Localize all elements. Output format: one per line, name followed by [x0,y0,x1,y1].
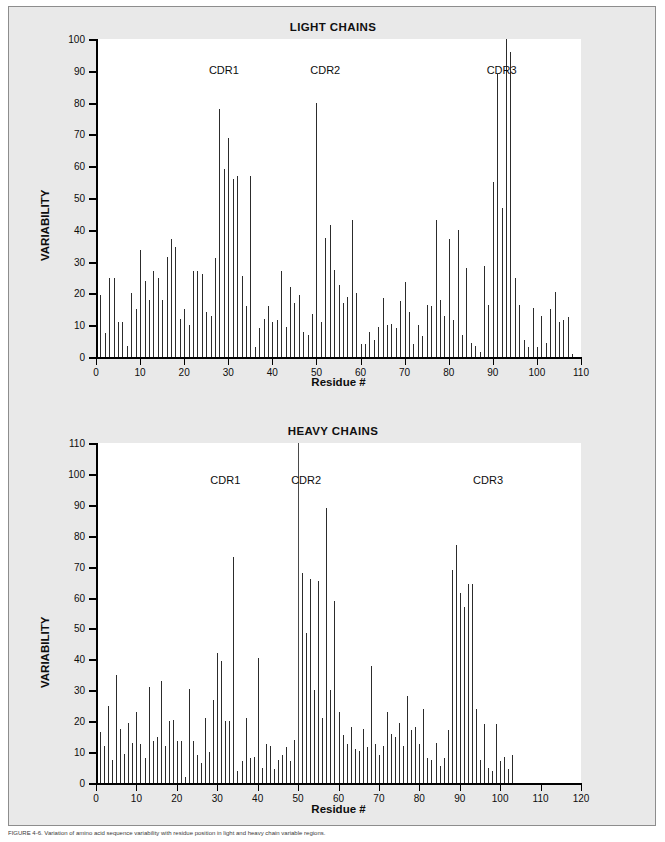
bar [221,661,222,783]
bar [228,138,229,357]
bar [537,347,538,357]
x-tick [272,359,273,365]
y-tick-label: 70 [45,561,85,572]
bar [282,755,283,783]
y-tick [89,230,96,232]
y-tick [89,690,96,692]
bar [541,316,542,357]
bar [504,757,505,783]
y-tick [89,39,96,41]
bar [464,607,465,783]
bar [363,729,364,783]
bar [120,729,121,783]
bar [383,746,384,783]
bar [100,295,101,357]
bar [294,303,295,357]
plot-area-heavy: CDR1CDR2CDR3 [96,443,581,783]
bar [415,727,416,783]
bar [250,758,251,783]
bar [316,103,317,357]
bar [488,768,489,783]
bar [452,570,453,783]
bar [145,758,146,783]
bar [347,297,348,357]
bar [202,274,203,357]
bar [250,176,251,357]
bar [500,761,501,783]
y-tick [89,721,96,723]
bar [472,584,473,783]
y-tick-label: 70 [45,129,85,140]
y-tick-label: 30 [45,256,85,267]
bar [318,581,319,783]
bar [254,757,255,783]
bar [387,325,388,357]
bar [281,271,282,357]
bar [306,633,307,783]
x-tick [493,359,494,365]
panel-heavy-chains: HEAVY CHAINS CDR1CDR2CDR3 01020304050607… [9,413,657,827]
bar [568,317,569,357]
bar [427,758,428,783]
y-tick-label: 60 [45,161,85,172]
bar [217,653,218,783]
bar [225,721,226,783]
bar [559,322,560,357]
bar [431,760,432,783]
y-tick [89,536,96,538]
bar [496,724,497,783]
bar [330,225,331,357]
bar [510,52,511,357]
bar [189,325,190,357]
x-tick [339,785,340,791]
bar [519,305,520,357]
bar [502,208,503,357]
bar [462,335,463,357]
bar [224,169,225,357]
bar [229,721,230,783]
bar [270,746,271,783]
bar [343,735,344,783]
x-tick [258,785,259,791]
bar [396,328,397,357]
bar [471,343,472,357]
x-tick [500,785,501,791]
y-tick-label: 30 [45,685,85,696]
bar [122,322,123,357]
cdr-label: CDR3 [487,64,517,76]
bar [272,322,273,357]
y-tick-label: 0 [45,352,85,363]
bar [219,109,220,357]
bar [211,316,212,357]
y-tick [89,443,96,445]
bar [403,746,404,783]
bar [149,300,150,357]
bar [149,687,150,783]
bar [456,545,457,783]
bar [268,306,269,357]
y-tick [89,293,96,295]
panel-title-light: LIGHT CHAINS [9,21,657,33]
x-tick [379,785,380,791]
cdr-label: CDR1 [209,64,239,76]
bar [173,720,174,783]
bar [177,741,178,783]
bar [175,247,176,357]
bar [411,730,412,783]
bar [436,220,437,357]
y-tick [89,783,96,785]
x-tick [316,359,317,365]
bar [476,709,477,783]
bar [383,298,384,357]
cdr-label: CDR2 [291,474,321,486]
bar [237,771,238,783]
bar [242,761,243,783]
x-tick [140,359,141,365]
bar [158,278,159,358]
y-tick-label: 80 [45,97,85,108]
bar [215,258,216,357]
bar [355,749,356,783]
bar [167,257,168,357]
y-tick-label: 60 [45,592,85,603]
bar [492,771,493,783]
